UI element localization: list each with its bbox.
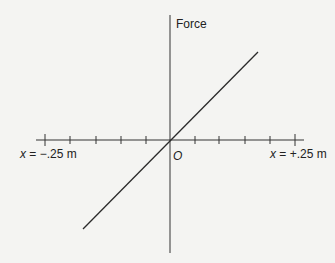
origin-letter: O <box>173 149 182 163</box>
x-right-label: x = +.25 m <box>270 147 327 161</box>
x-left-label: x = −.25 m <box>20 147 77 161</box>
origin-label: O <box>173 149 182 163</box>
x-left-value: = −.25 m <box>26 147 77 161</box>
x-right-value: = +.25 m <box>276 147 327 161</box>
chart-canvas <box>0 0 335 263</box>
y-axis-label: Force <box>176 17 207 31</box>
